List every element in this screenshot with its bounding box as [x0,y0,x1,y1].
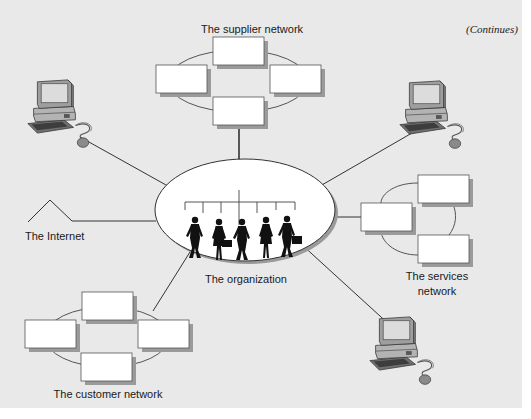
organization-label: The organization [205,273,287,285]
supplier-box [270,65,321,93]
services-network [361,175,473,267]
continues-note: (Continues) [466,23,518,35]
supplier-network [156,37,325,129]
organization-node [155,159,338,264]
supplier-box [156,65,207,93]
network-diagram [0,0,531,419]
desktop-computer-icon [400,81,463,148]
desktop-computer-icon [28,80,91,147]
services-box [418,175,469,203]
customer-network [25,292,193,385]
services-box [418,235,469,263]
customer-box [81,353,132,381]
services-network-label-line2: network [418,285,457,297]
services-network-label-line1: The services [406,270,468,282]
customer-box [25,320,76,348]
customer-box [138,320,189,348]
supplier-box [213,37,264,65]
desktop-computer-icon [370,317,433,384]
customer-network-label: The customer network [54,388,163,400]
services-box [361,203,412,231]
supplier-box [213,97,264,125]
customer-box [82,292,133,320]
supplier-network-label: The supplier network [201,23,303,35]
internet-label: The Internet [25,230,84,242]
